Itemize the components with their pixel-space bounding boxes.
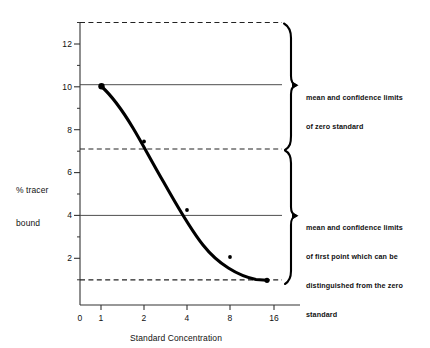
annotation-zero-standard-line-1: mean and confidence limits — [306, 93, 403, 103]
annotation-first-point-line-2: of first point which can be — [306, 252, 403, 262]
y-tick-label-2: 2 — [60, 253, 72, 263]
x-tick-label-2: 2 — [138, 313, 150, 323]
data-point-8 — [228, 255, 232, 259]
annotation-first-point-line-4: standard — [306, 310, 403, 320]
y-tick-label-4: 4 — [60, 210, 72, 220]
annotation-zero-standard-line-2: of zero standard — [306, 122, 403, 132]
x-tick-label-0: 0 — [74, 313, 86, 323]
y-axis-title: % tracer bound — [16, 163, 48, 251]
y-axis-title-line-2: bound — [16, 218, 48, 229]
annotation-first-point-line-3: distinguished from the zero — [306, 281, 403, 291]
x-tick-label-4: 4 — [181, 313, 193, 323]
x-tick-label-1: 1 — [95, 313, 107, 323]
x-tick-label-8: 8 — [224, 313, 236, 323]
y-tick-label-8: 8 — [60, 125, 72, 135]
x-axis-ticks — [101, 305, 274, 310]
annotation-first-point: mean and confidence limits of first poin… — [306, 204, 403, 338]
axis-lines — [80, 22, 300, 305]
data-point-2 — [142, 140, 146, 144]
y-axis-title-line-1: % tracer — [16, 185, 48, 196]
y-tick-label-12: 12 — [55, 39, 72, 49]
brace-pointer-zero-standard — [292, 82, 299, 90]
brace-pointer-first-point — [292, 212, 299, 220]
x-axis-title: Standard Concentration — [130, 333, 222, 343]
x-tick-label-16: 16 — [267, 313, 281, 323]
data-point-1 — [98, 83, 104, 89]
y-tick-label-6: 6 — [60, 167, 72, 177]
standard-curve-line — [102, 87, 268, 281]
data-point-16 — [264, 278, 269, 283]
annotation-zero-standard: mean and confidence limits of zero stand… — [306, 74, 403, 151]
data-point-4 — [185, 208, 189, 212]
chart-figure: 2 4 6 8 10 12 0 1 2 4 8 16 Standard Conc… — [0, 0, 430, 348]
annotation-first-point-line-1: mean and confidence limits — [306, 223, 403, 233]
y-tick-label-10: 10 — [55, 82, 72, 92]
